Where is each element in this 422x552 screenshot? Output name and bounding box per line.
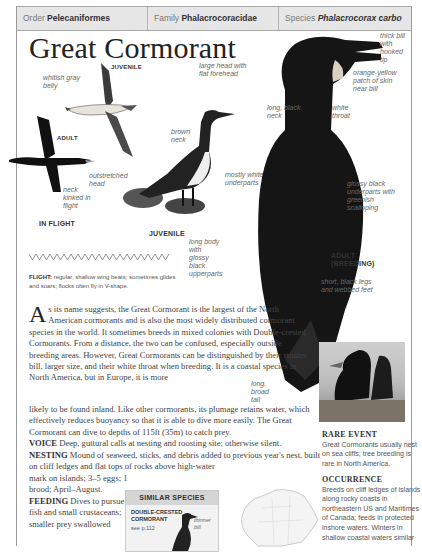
range-map: [232, 486, 320, 546]
description-full-width: likely to be found inland. Like other co…: [29, 404, 329, 472]
rare-event-heading: RARE EVENT: [322, 430, 422, 440]
occurrence-text: Breeds on cliff ledges of islands along …: [322, 485, 422, 543]
label-thick-bill: thick bill with hooked tip: [380, 32, 410, 64]
juvenile-tag: JUVENILE: [149, 230, 185, 237]
order-cell: Order Pelecaniformes: [17, 7, 148, 30]
flight-description: FLIGHT: regular, shallow wing beats; som…: [29, 273, 179, 291]
nesting-cormorant-photo: [319, 342, 405, 422]
occurrence-heading: OCCURRENCE: [322, 475, 422, 485]
description-full-text: likely to be found inland. Like other co…: [29, 404, 310, 437]
label-large-head: large head with flat forehead: [199, 62, 251, 78]
voice-label: VOICE: [29, 438, 57, 448]
label-whitish-gray-belly: whitish gray belly: [43, 74, 83, 90]
label-neck-kinked: neck kinked in flight: [63, 186, 93, 210]
label-long-black-neck: long, black neck: [267, 104, 307, 120]
rare-event-section: RARE EVENT Great Cormorants usually nest…: [322, 430, 422, 468]
similar-species-heading: SIMILAR SPECIES: [126, 491, 218, 505]
label-white-throat: white throat: [332, 104, 354, 120]
nesting-text-narrow: mark on islands; 3–5 eggs; 1 brood; Apri…: [29, 473, 128, 494]
description-wrapped-text: s its name suggests, the Great Cormorant…: [29, 304, 307, 382]
chick-photo-illustration: [319, 342, 405, 422]
adult-breeding-tag-2: (BREEDING): [331, 260, 375, 267]
field-guide-page: Order Pelecaniformes Family Phalacrocora…: [16, 6, 412, 546]
similar-species-box: SIMILAR SPECIES DOUBLE-CRESTED CORMORANT…: [125, 490, 219, 552]
similar-species-page-ref[interactable]: see p.112: [131, 525, 155, 531]
nesting-text: Mound of seaweed, sticks, and debris add…: [29, 450, 320, 471]
adult-breeding-tag-1: ADULT: [331, 252, 355, 259]
dropcap: A: [29, 304, 46, 324]
occurrence-section: OCCURRENCE Breeds on cliff ledges of isl…: [322, 475, 422, 542]
in-flight-tag: IN FLIGHT: [39, 220, 75, 227]
voice-text: Deep, guttural calls at nesting and roos…: [59, 438, 281, 448]
nesting-feeding-column: mark on islands; 3–5 eggs; 1 brood; Apri…: [29, 473, 129, 530]
order-value: Pelecaniformes: [47, 13, 110, 23]
order-label: Order: [23, 13, 45, 23]
label-short-black-legs: short, black legs and webbed feet: [321, 278, 381, 294]
nesting-label: NESTING: [29, 450, 68, 460]
label-long-body: long body with glossy black upperparts: [189, 238, 223, 278]
juvenile-flight-tag: JUVENILE: [111, 64, 142, 70]
flight-pattern-zigzag-icon: [29, 252, 169, 262]
feeding-label: FEEDING: [29, 496, 68, 506]
flight-label: FLIGHT:: [29, 274, 52, 280]
species-description: A s its name suggests, the Great Cormora…: [29, 304, 309, 384]
family-label: Family: [154, 13, 179, 23]
adult-flight-tag: ADULT: [57, 135, 78, 141]
rare-event-text: Great Cormorants usually nest on sea cli…: [322, 440, 422, 469]
label-glossy-black-underparts: glossy black underparts with greenish sc…: [347, 180, 397, 212]
similar-species-note: thinner bill: [194, 517, 218, 531]
label-orange-yellow-patch: orange-yellow patch of skin near bill: [353, 69, 401, 93]
